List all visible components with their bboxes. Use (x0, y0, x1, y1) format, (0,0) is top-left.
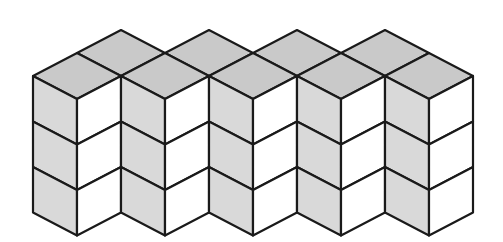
cube-stack-figure (0, 0, 503, 242)
cube-diagram (0, 0, 503, 242)
